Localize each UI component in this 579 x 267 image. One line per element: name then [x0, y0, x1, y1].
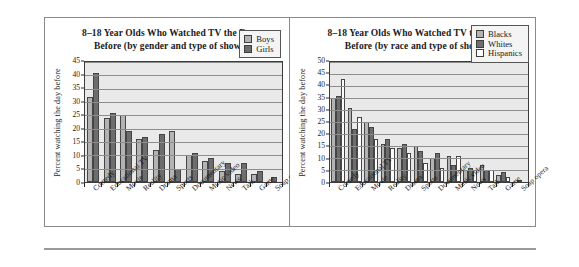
legend-race[interactable]: BlacksWhitesHispanics	[471, 25, 529, 63]
gridline	[85, 129, 282, 130]
legend-label: Whites	[488, 40, 512, 49]
gridline	[330, 158, 528, 159]
legend-item[interactable]: Blacks	[476, 30, 522, 39]
legend-item[interactable]: Hispanics	[476, 49, 522, 58]
y-tick-label: 20	[72, 125, 80, 133]
gridline	[85, 115, 282, 116]
legend-swatch-icon	[244, 45, 252, 53]
chart-panel-race: 8–18 Year Olds Who Watched TV the Day Be…	[290, 18, 535, 226]
gridline	[330, 146, 528, 147]
y-tick-label: 30	[72, 98, 80, 106]
gridline	[330, 122, 528, 123]
figure-dual-bar-charts: 8–18 Year Olds Who Watched TV the Day Be…	[0, 0, 579, 267]
y-tick-label: 20	[317, 130, 325, 138]
y-tick-label: 35	[317, 94, 325, 102]
y-tick-label: 45	[72, 57, 80, 65]
plot-area-race: 05101520253035404550	[312, 61, 529, 183]
legend-label: Hispanics	[488, 49, 522, 58]
y-tick-label: 15	[317, 143, 325, 151]
y-axis-ticks-gender: 051015202530354045	[67, 61, 84, 183]
legend-label: Blacks	[488, 30, 511, 39]
y-tick-label: 35	[72, 84, 80, 92]
gridline	[85, 102, 282, 103]
gridline	[85, 62, 282, 63]
legend-swatch-icon	[476, 40, 484, 48]
y-tick-label: 25	[72, 111, 80, 119]
y-tick-label: 15	[72, 139, 80, 147]
bar-group	[85, 62, 101, 182]
gridline	[85, 89, 282, 90]
y-tick-label: 25	[317, 118, 325, 126]
x-axis-labels-gender: ComedyEducational TVMovieRealityDramaSpo…	[84, 186, 283, 244]
y-axis-title-race: Percent watching the day before	[295, 58, 309, 186]
y-tick-label: 30	[317, 106, 325, 114]
bar-group	[167, 62, 183, 182]
bar-group	[266, 62, 282, 182]
plot-area-gender: 051015202530354045	[67, 61, 283, 183]
bar[interactable]	[341, 79, 346, 182]
y-tick-label: 5	[76, 166, 80, 174]
gridline	[330, 110, 528, 111]
y-axis-ticks-race: 05101520253035404550	[312, 61, 329, 183]
bar-groups-gender	[85, 62, 282, 182]
gridline	[330, 86, 528, 87]
legend-swatch-icon	[476, 49, 484, 57]
chart-panel-gender: 8–18 Year Olds Who Watched TV the Day Be…	[45, 18, 290, 226]
chart-panels: 8–18 Year Olds Who Watched TV the Day Be…	[44, 17, 536, 227]
gridline	[330, 98, 528, 99]
y-tick-label: 40	[317, 82, 325, 90]
legend-label: Boys	[256, 35, 274, 44]
legend-label: Girls	[256, 45, 273, 54]
bar-group	[249, 62, 265, 182]
x-axis-labels-race: ComedyEducational TVMovieRealityDramaSpo…	[329, 186, 529, 244]
bar-group	[184, 62, 200, 182]
gridline	[85, 75, 282, 76]
y-tick-label: 0	[76, 179, 80, 187]
legend-gender[interactable]: BoysGirls	[239, 30, 281, 58]
y-tick-label: 10	[72, 152, 80, 160]
plot-canvas-gender	[84, 61, 283, 183]
bar-group	[151, 62, 167, 182]
y-tick-label: 10	[317, 155, 325, 163]
y-tick-label: 5	[321, 167, 325, 175]
bar-group	[101, 62, 117, 182]
bottom-divider	[44, 248, 536, 250]
y-tick-label: 0	[321, 179, 325, 187]
legend-item[interactable]: Boys	[244, 35, 274, 44]
y-tick-label: 50	[317, 57, 325, 65]
y-axis-title-gender: Percent watching the day before	[50, 58, 64, 186]
gridline	[85, 142, 282, 143]
gridline	[330, 74, 528, 75]
gridline	[330, 134, 528, 135]
gridline	[85, 155, 282, 156]
gridline	[330, 170, 528, 171]
plot-canvas-race	[329, 61, 529, 183]
legend-swatch-icon	[244, 35, 252, 43]
y-tick-label: 40	[72, 71, 80, 79]
gridline	[85, 169, 282, 170]
legend-item[interactable]: Girls	[244, 45, 274, 54]
legend-swatch-icon	[476, 30, 484, 38]
legend-item[interactable]: Whites	[476, 40, 522, 49]
y-tick-label: 45	[317, 69, 325, 77]
